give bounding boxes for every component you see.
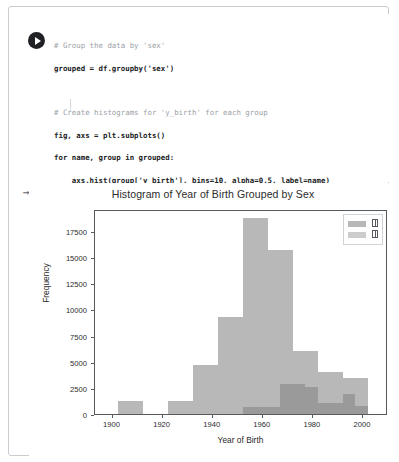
code-line: # Create histograms for 'y_birth' for ea… [54,107,399,118]
histogram-bar [343,394,356,414]
code-line-text: grouped = df.groupby('sex') [54,64,174,73]
code-line-text: # Create histograms for 'y_birth' for ea… [54,108,268,117]
histogram-bar [293,384,306,414]
x-tick-label: 1960 [253,420,270,429]
code-line-text: for name, group in grouped: [54,153,174,162]
y-tick-label: 5000 [70,358,87,367]
x-tick-label: 1980 [303,420,320,429]
code-line: # Group the data by 'sex' [54,40,399,51]
code-line: grouped = df.groupby('sex') [54,63,399,74]
histogram-bar [243,407,268,414]
y-tick-label: 2500 [70,384,87,393]
legend-item [348,219,378,229]
missing-glyph-box-icon [372,219,378,227]
legend-label-series-2 [372,230,378,240]
code-editor[interactable]: # Group the data by 'sex' grouped = df.g… [18,14,397,182]
matplotlib-figure: Histogram of Year of Birth Grouped by Se… [29,183,397,461]
missing-glyph-box-icon [372,230,378,238]
code-line: for name, group in grouped: [54,152,399,163]
y-tick-label: 10000 [66,306,87,315]
x-tick-mark [362,415,363,418]
y-tick-label: 0 [83,411,87,420]
x-tick-label: 2000 [354,420,371,429]
code-line-text: fig, axs = plt.subplots() [54,131,165,140]
legend-item [348,230,378,240]
y-tick-label: 15000 [66,254,87,263]
histogram-bar [355,406,368,414]
chart-title: Histogram of Year of Birth Grouped by Se… [29,188,397,200]
x-axis-label: Year of Birth [94,435,387,445]
notebook-cell: # Group the data by 'sex' grouped = df.g… [8,6,389,456]
code-line [54,85,399,96]
y-tick-label: 17500 [66,227,87,236]
x-tick-mark [262,415,263,418]
x-tick-label: 1940 [203,420,220,429]
histogram-bar [118,401,143,414]
legend-swatch-series-1 [348,221,366,227]
x-tick-mark [112,415,113,418]
x-tick-label: 1920 [153,420,170,429]
x-tick-mark [162,415,163,418]
x-tick-mark [212,415,213,418]
y-tick-label: 7500 [70,332,87,341]
histogram-bar [243,218,268,414]
plot-area [94,210,387,415]
histogram-bar [168,401,193,414]
histogram-bar [193,365,218,414]
x-tick-label: 1900 [103,420,120,429]
histogram-bar [280,384,293,414]
legend-label-series-1 [372,219,378,229]
x-tick-mark [312,415,313,418]
code-line-text: # Group the data by 'sex' [54,41,165,50]
chart-legend[interactable] [343,214,383,245]
run-cell-button[interactable] [28,32,45,49]
histogram-bar [218,317,243,414]
y-tick-label: 12500 [66,280,87,289]
y-axis-ticks: 025005000750010000125001500017500 [29,210,97,415]
legend-swatch-series-2 [348,232,366,238]
code-line: fig, axs = plt.subplots() [54,130,399,141]
histogram-bar [305,387,318,414]
play-icon [35,37,41,45]
screenshot-root: # Group the data by 'sex' grouped = df.g… [0,0,399,462]
histogram-bar [268,407,281,414]
histogram-bar [318,403,343,415]
